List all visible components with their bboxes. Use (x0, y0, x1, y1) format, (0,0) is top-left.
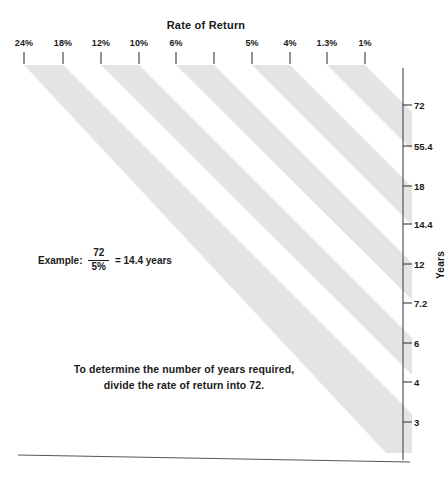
rate-tick-group (24, 52, 365, 64)
rate-label-6: 6% (169, 38, 182, 48)
rate-label-10: 10% (130, 38, 148, 48)
rate-label-5: 5% (245, 38, 258, 48)
instruction-note-line1: To determine the number of years require… (24, 362, 344, 378)
years-axis-title: Years (435, 251, 446, 279)
year-label-55p4: 55.4 (414, 141, 433, 152)
rule-of-72-nomogram (0, 0, 446, 483)
instruction-note: To determine the number of years require… (24, 362, 344, 394)
rate-label-4: 4% (283, 38, 296, 48)
instruction-note-line2: divide the rate of return into 72. (24, 378, 344, 394)
year-label-18: 18 (414, 181, 425, 192)
years-tick-group (403, 105, 412, 422)
year-label-7p2: 7.2 (414, 298, 427, 309)
year-label-12: 12 (414, 259, 425, 270)
year-label-72: 72 (414, 100, 425, 111)
example-result: = 14.4 years (115, 255, 172, 266)
example-prefix: Example: (38, 255, 82, 266)
baseline (18, 455, 410, 462)
example-numerator: 72 (90, 248, 107, 259)
example-denominator: 5% (88, 262, 108, 273)
example-fraction: 72 5% (88, 248, 108, 272)
year-label-3: 3 (414, 417, 419, 428)
example-annotation: Example: 72 5% = 14.4 years (38, 248, 172, 272)
rate-label-18: 18% (54, 38, 72, 48)
rate-label-1p3: 1.3% (317, 38, 338, 48)
rate-label-24: 24% (15, 38, 33, 48)
page-title: Rate of Return (0, 19, 412, 31)
year-label-6: 6 (414, 338, 419, 349)
year-label-4: 4 (414, 377, 419, 388)
rate-label-12: 12% (92, 38, 110, 48)
year-label-14p4: 14.4 (414, 219, 433, 230)
rate-label-1: 1% (358, 38, 371, 48)
